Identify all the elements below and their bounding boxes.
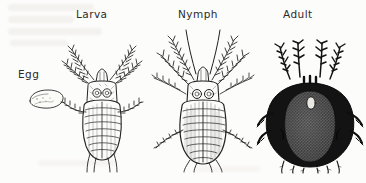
label-nymph: Nymph xyxy=(178,8,218,20)
figure-adult xyxy=(256,33,364,173)
label-adult: Adult xyxy=(283,8,313,20)
bleed-through-line-2 xyxy=(8,16,74,23)
label-larva: Larva xyxy=(76,8,108,20)
figure-larva xyxy=(56,36,148,172)
bleed-through-line-3 xyxy=(8,28,102,35)
figure-nymph xyxy=(150,26,260,172)
illustration-plate: Egg Larva Nymph Adult xyxy=(0,0,366,183)
label-egg: Egg xyxy=(18,68,39,80)
